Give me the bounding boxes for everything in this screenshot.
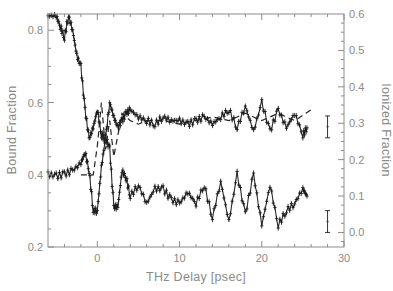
y-left-tick-label: 0.4 (28, 169, 43, 181)
x-tick-label: 0 (94, 252, 100, 264)
x-tick-label: 10 (173, 252, 185, 264)
y-right-tick-label: 0.3 (349, 117, 364, 129)
y-right-tick-label: 0.4 (349, 81, 364, 93)
ionized-fraction-curve (48, 135, 307, 228)
y-right-tick-label: 0.1 (349, 190, 364, 202)
data-markers (46, 132, 308, 230)
y-right-tick-label: 0.0 (349, 226, 364, 238)
error-bar (325, 116, 330, 138)
x-axis-title: THz Delay [psec] (146, 270, 246, 284)
y-right-tick-label: 0.6 (349, 8, 364, 20)
plot-area (46, 12, 330, 232)
error-bar (325, 211, 330, 233)
y-left-tick-label: 0.6 (28, 97, 43, 109)
chart: 0102030 0.20.40.60.8 0.00.10.20.30.40.50… (0, 0, 393, 291)
x-tick-label: 30 (338, 252, 350, 264)
y-axis-left: 0.20.40.60.8 (28, 24, 54, 253)
y-axis-left-title: Bound Fraction (5, 86, 19, 175)
y-right-tick-label: 0.5 (349, 44, 364, 56)
y-axis-right-title: Ionized Fraction (379, 83, 393, 177)
y-axis-right: 0.00.10.20.30.40.50.6 (338, 8, 364, 242)
y-right-tick-label: 0.2 (349, 154, 364, 166)
y-left-tick-label: 0.2 (28, 241, 43, 253)
x-tick-label: 20 (256, 252, 268, 264)
y-left-tick-label: 0.8 (28, 24, 43, 36)
